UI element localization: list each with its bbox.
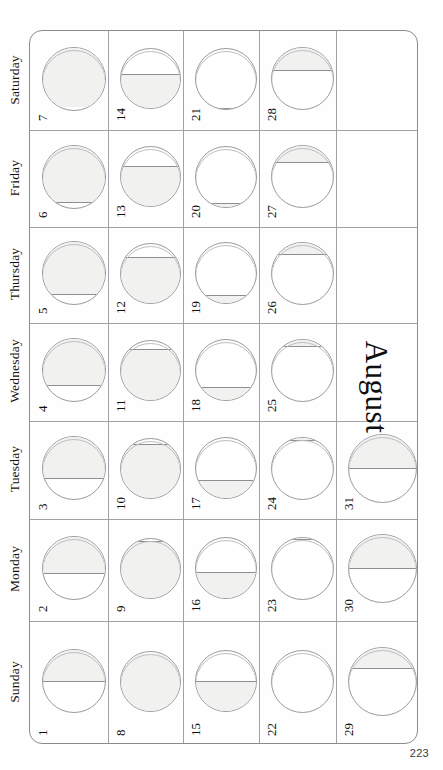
calendar-day-cell[interactable]: 23 [259, 519, 336, 621]
calendar-day-cell[interactable]: 6 [30, 130, 108, 227]
day-number-text: 19 [188, 296, 204, 314]
calendar-day-cell[interactable]: 29 [336, 621, 419, 745]
moon-phase-icon [42, 649, 106, 713]
calendar-page: SaturdayFridayThursdayWednesdayTuesdayMo… [0, 0, 443, 770]
moon-phase-icon [271, 437, 334, 500]
calendar-day-cell[interactable]: 27 [259, 130, 336, 227]
day-number: 12 [112, 297, 130, 317]
day-number: 29 [340, 719, 358, 739]
day-number-text: 11 [113, 394, 129, 412]
calendar-day-cell[interactable]: 17 [183, 421, 259, 519]
moon-terminator-line [120, 541, 181, 542]
calendar-day-cell[interactable]: 9 [108, 519, 183, 621]
moon-terminator-line [42, 681, 106, 682]
moon-lit-region [120, 445, 181, 499]
moon-lit-region [271, 242, 334, 254]
day-number-text: 30 [341, 594, 357, 612]
moon-lit-region [42, 241, 106, 294]
day-number: 31 [340, 493, 358, 513]
moon-phase-icon [271, 242, 334, 305]
moon-terminator-line [271, 346, 334, 347]
day-number: 17 [187, 493, 205, 513]
calendar-day-cell[interactable]: 10 [108, 421, 183, 519]
day-number-text: 23 [264, 594, 280, 612]
moon-phase-icon [42, 338, 106, 402]
calendar-day-cell[interactable]: 19 [183, 227, 259, 323]
moon-phase-icon [271, 339, 334, 402]
calendar-day-cell[interactable]: 21 [183, 31, 259, 130]
moon-lit-region [348, 534, 417, 568]
calendar-day-cell[interactable]: 20 [183, 130, 259, 227]
day-number: 8 [112, 719, 130, 739]
calendar-day-cell[interactable]: 1 [30, 621, 108, 745]
weekday-label-text: Thursday [7, 248, 23, 301]
day-number: 3 [34, 493, 52, 513]
weekday-label-sunday: Sunday [0, 620, 30, 744]
day-number-text: 31 [341, 492, 357, 510]
moon-terminator-line [120, 444, 181, 445]
calendar-day-cell[interactable]: 7 [30, 31, 108, 130]
moon-lit-region [271, 145, 334, 162]
moon-lit-region [120, 542, 181, 599]
calendar-day-cell[interactable]: 24 [259, 421, 336, 519]
moon-phase-icon [120, 243, 181, 304]
moon-terminator-line [120, 349, 181, 350]
calendar-day-cell[interactable]: 4 [30, 323, 108, 421]
weekday-label-text: Monday [7, 546, 23, 592]
day-number: 28 [263, 104, 281, 124]
day-number: 2 [34, 595, 52, 615]
calendar-day-cell[interactable]: 22 [259, 621, 336, 745]
calendar-day-cell[interactable]: 28 [259, 31, 336, 130]
calendar-day-cell[interactable]: 8 [108, 621, 183, 745]
moon-phase-icon [271, 650, 334, 713]
moon-phase-icon [348, 434, 417, 503]
day-number-text: 28 [264, 103, 280, 121]
day-number-text: 6 [35, 200, 51, 218]
moon-phase-icon [42, 436, 106, 500]
moon-terminator-line [120, 74, 181, 75]
moon-terminator-line [195, 387, 257, 388]
day-number-text: 20 [188, 200, 204, 218]
moon-phase-icon [42, 145, 106, 209]
moon-terminator-line [120, 257, 181, 258]
day-number-text: 3 [35, 492, 51, 510]
moon-terminator-line [42, 478, 106, 479]
calendar-day-cell[interactable]: 30 [336, 519, 419, 621]
moon-terminator-line [42, 573, 106, 574]
calendar-day-cell[interactable]: 11 [108, 323, 183, 421]
moon-lit-region [42, 436, 106, 478]
calendar-day-cell[interactable]: 14 [108, 31, 183, 130]
calendar-day-cell[interactable]: 26 [259, 227, 336, 323]
calendar-day-cell[interactable]: 16 [183, 519, 259, 621]
day-number: 23 [263, 595, 281, 615]
calendar-day-cell[interactable]: 31 [336, 421, 419, 519]
moon-phase-icon [271, 145, 334, 208]
day-number: 13 [112, 201, 130, 221]
day-number: 20 [187, 201, 205, 221]
day-number: 30 [340, 595, 358, 615]
day-number: 22 [263, 719, 281, 739]
day-number-text: 10 [113, 492, 129, 510]
calendar-day-cell[interactable]: 15 [183, 621, 259, 745]
calendar-day-cell[interactable]: 25 [259, 323, 336, 421]
calendar-day-cell[interactable]: 18 [183, 323, 259, 421]
calendar-day-cell[interactable]: 13 [108, 130, 183, 227]
day-number-text: 12 [113, 296, 129, 314]
weekday-label-wednesday: Wednesday [0, 322, 30, 420]
calendar-day-cell[interactable]: 3 [30, 421, 108, 519]
calendar-day-cell[interactable]: 12 [108, 227, 183, 323]
moon-terminator-line [120, 166, 181, 167]
moon-terminator-line [42, 294, 106, 295]
day-number-text: 18 [188, 394, 204, 412]
calendar-day-cell[interactable]: 2 [30, 519, 108, 621]
moon-phase-icon [195, 650, 257, 712]
day-number-text: 26 [264, 296, 280, 314]
moon-terminator-line [348, 568, 417, 569]
calendar-day-cell[interactable]: 5 [30, 227, 108, 323]
day-number-text: 8 [113, 718, 129, 736]
day-number: 27 [263, 201, 281, 221]
day-number: 24 [263, 493, 281, 513]
moon-lit-region [348, 434, 417, 468]
moon-lit-region [42, 338, 106, 385]
moon-terminator-line [348, 668, 417, 669]
